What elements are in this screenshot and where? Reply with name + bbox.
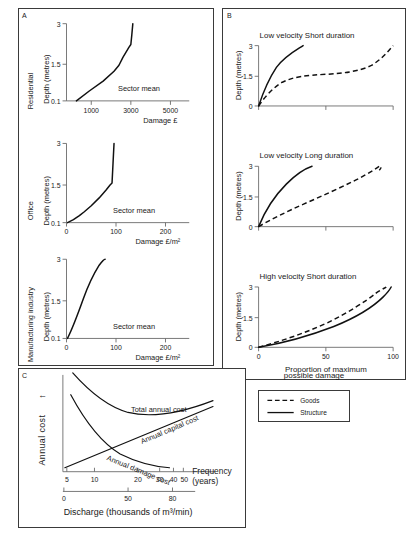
xtick-residential-3000: 3000 [123, 107, 139, 114]
xtick-c-freq-20: 20 [134, 476, 142, 483]
chart-manufacturing: Manufacturing industry Depth (metres) 3 … [26, 256, 189, 362]
legend-item-structure: Structure [267, 409, 327, 416]
panel-a: A Residential Depth (metres) 3 1.5 0.1 1… [18, 8, 214, 366]
panel-b-svg: Low velocity Short duration Depth (metre… [223, 9, 405, 379]
ytick-b2-3: 3 [249, 163, 253, 170]
yaxis-title-manufacturing: Depth (metres) [42, 292, 51, 341]
ytick-residential-15: 1.5 [51, 61, 61, 68]
legend-item-goods: Goods [267, 397, 320, 404]
xtick-office-200: 200 [160, 229, 172, 236]
xaxis-title-residential: Damage £ [143, 116, 177, 125]
xtick-b3-0: 0 [257, 353, 261, 360]
xtick-office-0: 0 [65, 229, 69, 236]
panel-b: B Low velocity Short duration Depth (met… [222, 8, 406, 380]
panel-a-svg: Residential Depth (metres) 3 1.5 0.1 100… [19, 9, 213, 365]
flood-damage-figure: A Residential Depth (metres) 3 1.5 0.1 1… [0, 0, 414, 536]
legend-svg: Goods Structure [259, 391, 349, 421]
chart-title-low-velocity-long: Low velocity Long duration [260, 151, 354, 160]
ytick-b3-15: 1.5 [243, 315, 253, 322]
xtick-c-discharge-50: 50 [124, 495, 132, 502]
ytick-manufacturing-15: 1.5 [51, 298, 61, 305]
xtick-c-discharge-0: 0 [62, 495, 66, 502]
ytick-b2-0: 0 [249, 224, 253, 231]
xtick-manufacturing-0: 0 [65, 344, 69, 351]
chart-office: Office Depth (metres) 3 1.5 0.1 0 100 20… [26, 140, 189, 246]
xtick-manufacturing-100: 100 [110, 344, 122, 351]
panel-c: C Annual cost ↑ 5 10 20 30 40 50 Frequen… [18, 368, 246, 528]
legend-label-structure: Structure [300, 409, 327, 416]
ytick-residential-3: 3 [57, 21, 61, 28]
curve-label-annual-capital-cost: Annual capital cost [139, 413, 200, 446]
yaxis-title-b3: Depth (metres) [234, 292, 243, 341]
annotation-sector-mean-manufacturing: Sector mean [113, 322, 155, 331]
category-label-office: Office [26, 201, 35, 220]
legend-label-goods: Goods [300, 397, 320, 404]
curve-label-total-annual-cost: Total annual cost [131, 405, 186, 414]
ytick-b3-0: 0 [249, 344, 253, 351]
ytick-b1-3: 3 [249, 43, 253, 50]
yaxis-title-b2: Depth (metres) [234, 171, 243, 220]
annotation-sector-mean-residential: Sector mean [118, 84, 160, 93]
chart-title-high-velocity-short: High velocity Short duration [260, 272, 357, 281]
ytick-b2-15: 1.5 [243, 194, 253, 201]
xtick-c-freq-10: 10 [91, 476, 99, 483]
xtick-manufacturing-200: 200 [160, 344, 172, 351]
ytick-manufacturing-3: 3 [57, 256, 61, 263]
ytick-office-3: 3 [57, 140, 61, 147]
xaxis-title-c-frequency-units: (years) [192, 476, 218, 486]
ytick-b1-15: 1.5 [243, 73, 253, 80]
yaxis-arrow-c-icon: ↑ [37, 394, 47, 398]
ytick-residential-01: 0.1 [51, 98, 61, 105]
chart-residential: Residential Depth (metres) 3 1.5 0.1 100… [26, 21, 189, 125]
xtick-residential-5000: 5000 [163, 107, 179, 114]
xtick-office-100: 100 [110, 229, 122, 236]
chart-high-velocity-short-duration: High velocity Short duration Depth (metr… [234, 272, 399, 360]
category-label-residential: Residential [26, 72, 35, 109]
chart-low-velocity-long-duration: Low velocity Long duration Depth (metres… [234, 151, 393, 230]
xtick-c-discharge-80: 80 [169, 495, 177, 502]
chart-low-velocity-short-duration: Low velocity Short duration Depth (metre… [234, 31, 393, 110]
ytick-b1-0: 0 [249, 103, 253, 110]
xtick-residential-1000: 1000 [84, 107, 100, 114]
yaxis-title-c: Annual cost [37, 415, 47, 466]
xaxis-title-b-line2: possible damage [222, 371, 406, 380]
xtick-c-freq-50: 50 [180, 476, 188, 483]
yaxis-title-b1: Depth (metres) [234, 51, 243, 100]
panel-c-svg: Annual cost ↑ 5 10 20 30 40 50 Frequency… [19, 369, 245, 527]
ytick-b3-3: 3 [249, 284, 253, 291]
legend: Goods Structure [258, 390, 350, 422]
xtick-c-freq-5: 5 [65, 476, 69, 483]
yaxis-title-office: Depth (metres) [42, 176, 51, 225]
xtick-b3-50: 50 [322, 353, 330, 360]
annotation-sector-mean-office: Sector mean [113, 206, 155, 215]
chart-title-low-velocity-short: Low velocity Short duration [260, 31, 355, 40]
xaxis-title-c-frequency: Frequency [192, 466, 232, 476]
xaxis-title-manufacturing: Damage £/m² [135, 353, 180, 362]
category-label-manufacturing: Manufacturing industry [26, 287, 35, 362]
xaxis-title-office: Damage £/m² [135, 237, 180, 246]
ytick-manufacturing-01: 0.1 [51, 335, 61, 342]
yaxis-title-residential: Depth (metres) [42, 54, 51, 103]
ytick-office-01: 0.1 [51, 220, 61, 227]
xaxis-title-c-discharge: Discharge (thousands of m³/min) [64, 507, 193, 517]
ytick-office-15: 1.5 [51, 182, 61, 189]
xtick-b3-100: 100 [387, 353, 399, 360]
